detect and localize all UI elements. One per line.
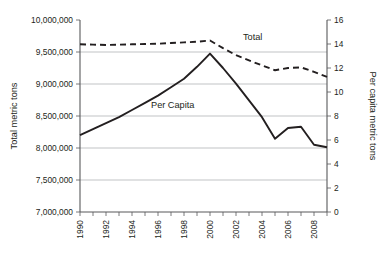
- x-tick-label: 1998: [179, 220, 189, 239]
- left-axis-ticks: [76, 20, 80, 212]
- x-axis-ticks: [80, 212, 327, 216]
- series-annotation-total: Total: [243, 32, 262, 42]
- left-tick-label: 7,000,000: [36, 207, 74, 217]
- left-tick-label: 10,000,000: [31, 15, 73, 25]
- x-tick-label: 1990: [75, 220, 85, 239]
- right-tick-label: 16: [334, 15, 344, 25]
- right-tick-label: 2: [334, 183, 339, 193]
- x-tick-label: 2008: [309, 220, 319, 239]
- right-tick-label: 10: [334, 87, 344, 97]
- line-chart: 7,000,0007,500,0008,000,0008,500,0009,00…: [0, 0, 383, 262]
- x-tick-label: 1994: [127, 220, 137, 239]
- series-line-per-capita: [80, 54, 327, 148]
- left-tick-label: 9,500,000: [36, 47, 74, 57]
- x-tick-label: 2002: [231, 220, 241, 239]
- x-tick-label: 2006: [283, 220, 293, 239]
- chart-container: 7,000,0007,500,0008,000,0008,500,0009,00…: [0, 0, 383, 262]
- left-tick-label: 8,000,000: [36, 143, 74, 153]
- left-tick-label: 9,000,000: [36, 79, 74, 89]
- left-tick-label: 7,500,000: [36, 175, 74, 185]
- right-tick-label: 0: [334, 207, 339, 217]
- x-tick-label: 2000: [205, 220, 215, 239]
- x-axis-tick-labels: 1990199219941996199820002002200420062008: [75, 220, 319, 239]
- x-tick-label: 2004: [257, 220, 267, 239]
- left-axis-title: Total metric tons: [9, 82, 19, 149]
- right-tick-label: 6: [334, 135, 339, 145]
- series-annotation-per-capita: Per Capita: [151, 100, 195, 110]
- left-axis-tick-labels: 7,000,0007,500,0008,000,0008,500,0009,00…: [31, 15, 73, 217]
- x-tick-label: 1996: [153, 220, 163, 239]
- right-tick-label: 14: [334, 39, 344, 49]
- gridlines: [80, 52, 327, 180]
- right-tick-label: 4: [334, 159, 339, 169]
- series-line-total: [80, 40, 327, 76]
- right-axis-tick-labels: 0246810121416: [334, 15, 344, 217]
- right-axis-ticks: [327, 20, 331, 212]
- x-tick-label: 1992: [101, 220, 111, 239]
- right-tick-label: 12: [334, 63, 344, 73]
- right-axis-title: Per capita metric tons: [368, 72, 378, 161]
- right-tick-label: 8: [334, 111, 339, 121]
- left-tick-label: 8,500,000: [36, 111, 74, 121]
